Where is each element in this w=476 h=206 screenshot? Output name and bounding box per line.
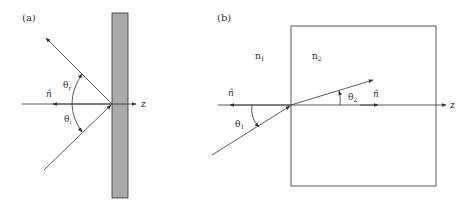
- theta1-label: θ1: [235, 119, 244, 130]
- panel-a: (a) z n̂ θr θi: [22, 12, 146, 198]
- angle-arc-1: [252, 105, 259, 127]
- normal-label-right: n̂: [373, 89, 379, 99]
- mirror-slab: [112, 13, 128, 198]
- theta-r-label: θr: [63, 80, 71, 91]
- medium1-label: n1: [255, 51, 265, 62]
- incident-ray-b: [212, 106, 290, 155]
- panel-a-label: (a): [22, 12, 36, 23]
- refracted-ray-b: [291, 80, 373, 105]
- z-label-a: z: [141, 99, 146, 109]
- angle-arc-a: [72, 74, 82, 132]
- medium-box: [291, 26, 436, 186]
- panel-b-label: (b): [217, 12, 231, 23]
- reflected-ray-a: [46, 38, 112, 104]
- normal-label-left: n̂: [228, 88, 234, 98]
- theta-i-label: θi: [64, 114, 71, 125]
- angle-arc-2: [339, 91, 340, 105]
- normal-label-a: n̂: [46, 89, 52, 99]
- optics-diagram: (a) z n̂ θr θi (b) n1 n2 z n̂ n̂: [0, 0, 476, 206]
- medium2-label: n2: [312, 51, 322, 62]
- theta2-label: θ2: [348, 92, 357, 103]
- incident-ray-a: [44, 105, 111, 170]
- z-label-b: z: [450, 100, 455, 110]
- panel-b: (b) n1 n2 z n̂ n̂ θ1 θ2: [212, 12, 455, 186]
